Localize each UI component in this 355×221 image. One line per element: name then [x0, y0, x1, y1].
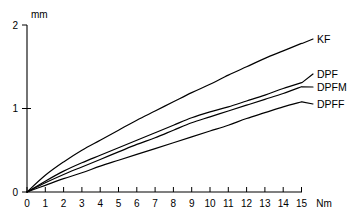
x-tick-label-13: 13 [259, 198, 271, 209]
x-tick-label-12: 12 [241, 198, 253, 209]
x-tick-label-11: 11 [223, 198, 234, 209]
x-tick-label-3: 3 [79, 198, 85, 209]
series-curve-dpf [27, 83, 302, 192]
leader-line-dpff [302, 102, 313, 104]
x-tick-label-1: 1 [43, 198, 49, 209]
x-axis-tick-labels: 0 1 2 3 4 5 6 7 8 9 10 11 12 13 14 15 [24, 198, 307, 209]
leader-line-kf [302, 39, 313, 44]
x-tick-label-0: 0 [24, 198, 30, 209]
x-tick-label-2: 2 [61, 198, 67, 209]
x-tick-label-14: 14 [278, 198, 290, 209]
line-chart: 0 1 2 mm 0 1 2 3 [0, 0, 355, 221]
x-tick-label-10: 10 [204, 198, 216, 209]
series-curve-kf [27, 43, 302, 192]
series-label-dpf: DPF [317, 68, 338, 80]
x-tick-label-6: 6 [134, 198, 140, 209]
y-tick-label-2: 2 [12, 20, 18, 31]
x-axis-ticks [27, 187, 302, 192]
series-label-dpff: DPFF [317, 98, 344, 110]
x-tick-label-7: 7 [152, 198, 158, 209]
x-tick-label-15: 15 [296, 198, 308, 209]
series-curve-dpfm [27, 87, 302, 192]
x-tick-label-5: 5 [116, 198, 122, 209]
label-leader-lines [302, 39, 313, 104]
x-axis-unit-label: Nm [316, 198, 332, 209]
x-tick-label-8: 8 [171, 198, 177, 209]
y-tick-label-0: 0 [12, 187, 18, 198]
chart-canvas: 0 1 2 mm 0 1 2 3 [0, 0, 355, 221]
y-tick-label-1: 1 [12, 103, 18, 114]
y-axis-unit-label: mm [31, 9, 48, 20]
x-tick-label-4: 4 [97, 198, 103, 209]
series-curves [27, 43, 302, 192]
series-label-kf: KF [317, 33, 330, 45]
series-label-dpfm: DPFM [317, 81, 347, 93]
x-tick-label-9: 9 [189, 198, 195, 209]
leader-line-dpf [302, 74, 313, 83]
series-curve-dpff [27, 102, 302, 192]
